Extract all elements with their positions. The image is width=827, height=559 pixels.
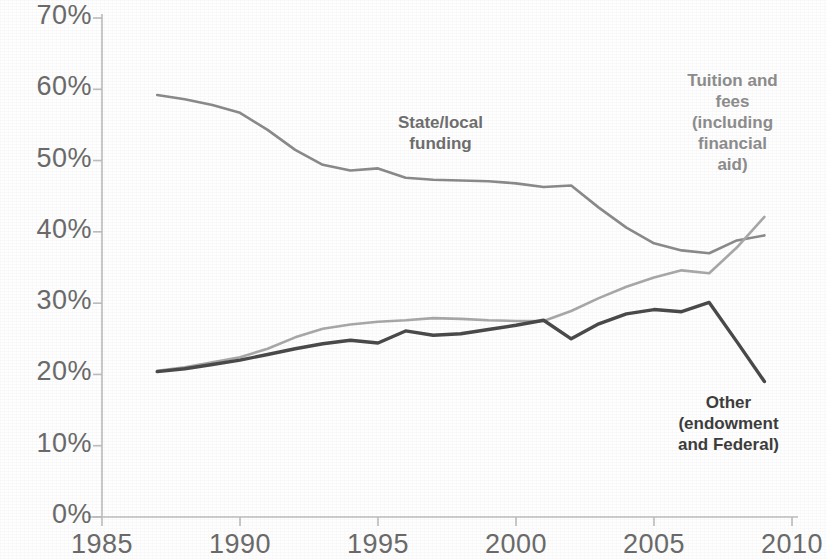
series-line-1: [157, 217, 764, 371]
y-axis-label-70: 70%: [0, 0, 92, 31]
x-axis-label-1990: 1990: [185, 529, 295, 559]
y-axis-label-0: 0%: [0, 499, 92, 530]
y-axis-label-10: 10%: [0, 428, 92, 459]
x-axis-label-1985: 1985: [47, 529, 157, 559]
y-axis-label-30: 30%: [0, 285, 92, 316]
x-axis-label-2005: 2005: [599, 529, 709, 559]
x-axis-label-2000: 2000: [461, 529, 571, 559]
series-label-other-endowment-federal: Other (endowment and Federal): [630, 392, 827, 455]
series-line-2: [157, 302, 764, 381]
series-label-tuition-and-fees: Tuition and fees (including financial ai…: [645, 70, 820, 175]
y-axis-label-40: 40%: [0, 214, 92, 245]
x-axis-label-1995: 1995: [323, 529, 433, 559]
line-chart: 0%10%20%30%40%50%60%70% 1985199019952000…: [0, 0, 827, 559]
y-axis-label-50: 50%: [0, 143, 92, 174]
x-axis-label-2010: 2010: [737, 529, 827, 559]
y-axis-label-60: 60%: [0, 71, 92, 102]
y-axis-label-20: 20%: [0, 356, 92, 387]
series-label-state-local: State/local funding: [338, 112, 543, 154]
